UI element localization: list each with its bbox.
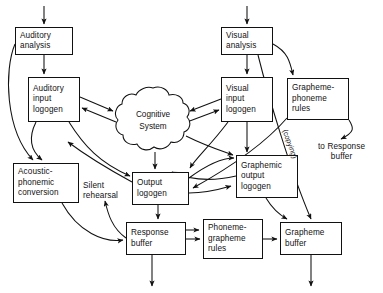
node-output-logogen[interactable]: Output logogen (132, 172, 189, 205)
label-line: Silent (83, 181, 118, 191)
node-label-line: logogen (226, 105, 256, 115)
arrow-visual-input-logogen-to-graphemic-output-logogen (190, 122, 228, 168)
node-label-line: output (241, 171, 264, 181)
node-label-line: conversion (18, 188, 59, 198)
node-response-buffer[interactable]: Response buffer (126, 222, 186, 255)
node-label-line: Graphemic (241, 161, 282, 171)
node-graphemic-output-logogen[interactable]: Graphemic output logogen (236, 155, 298, 198)
node-label-line: Acoustic- (18, 167, 53, 177)
node-grapheme-phoneme-rules[interactable]: Grapheme- phoneme rules (287, 78, 349, 120)
node-label-line: logogen (137, 189, 167, 199)
arrow-visual-analysis-to-grapheme-phoneme-rules (273, 44, 293, 75)
label-line: to Response (318, 142, 365, 152)
node-label-line: Response (131, 228, 169, 238)
node-visual-input-logogen[interactable]: Visual input logogen (221, 77, 273, 122)
node-label-line: phoneme (292, 94, 327, 104)
node-label-line: logogen (241, 182, 271, 192)
cognitive-system-label: Cognitive System (113, 109, 193, 132)
arrow-auditory-input-logogen-to-acoustic-phonemic-conversion (31, 122, 42, 160)
label-line: rehearsal (83, 191, 118, 201)
arrow-visual-input-logogen-to-cognitive-system (190, 99, 221, 111)
node-label-line: input (226, 94, 244, 104)
label-to-response-buffer: to Response buffer (318, 142, 365, 163)
arrow-graphemic-output-logogen-to-grapheme-buffer (266, 198, 287, 219)
node-label-line: Output (137, 178, 162, 188)
node-label-line: phonemic (18, 178, 54, 188)
node-label-line: buffer (131, 239, 152, 249)
arrow-response-buffer-silent-rehearsal (105, 201, 126, 238)
logogen-model-diagram: Cognitive System Auditory analysis Audit… (0, 0, 383, 293)
node-label-line: logogen (33, 105, 63, 115)
node-label-line: rules (208, 244, 226, 254)
arrow-grapheme-phoneme-rules-to-response-buffer-offpage (341, 120, 352, 139)
node-label-line: grapheme (208, 234, 246, 244)
node-label-line: analysis (20, 41, 50, 51)
node-label-line: Grapheme (285, 228, 324, 238)
node-label-line: rules (292, 104, 310, 114)
node-label-line: input (33, 94, 51, 104)
arrow-cognitive-system-to-graphemic-output-logogen (186, 136, 233, 155)
node-label-line: Grapheme- (292, 83, 334, 93)
label-line: buffer (318, 152, 365, 162)
node-auditory-input-logogen[interactable]: Auditory input logogen (28, 77, 80, 122)
arrow-acoustic-phonemic-conversion-to-response-buffer (62, 203, 123, 240)
label-silent-rehearsal: Silent rehearsal (83, 181, 118, 202)
node-label-line: Visual (226, 84, 249, 94)
node-phoneme-grapheme-rules[interactable]: Phoneme- grapheme rules (203, 219, 263, 259)
node-label-line: buffer (285, 239, 306, 249)
node-label-line: Visual (226, 31, 249, 41)
node-acoustic-phonemic-conversion[interactable]: Acoustic- phonemic conversion (13, 163, 79, 203)
node-label-line: Phoneme- (208, 223, 247, 233)
node-grapheme-buffer[interactable]: Grapheme buffer (280, 222, 342, 255)
node-visual-analysis[interactable]: Visual analysis (221, 27, 273, 55)
node-label-line: Auditory (33, 84, 64, 94)
node-auditory-analysis[interactable]: Auditory analysis (15, 27, 73, 55)
node-label-line: analysis (226, 41, 256, 51)
node-label-line: Auditory (20, 31, 51, 41)
